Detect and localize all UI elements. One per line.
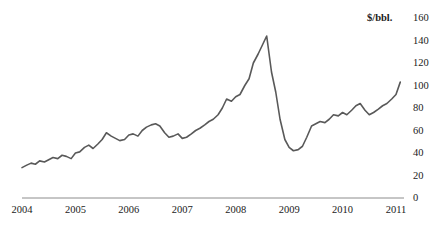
y-axis-tick-0: 0 [413, 193, 418, 204]
y-axis-tick-20: 20 [413, 171, 424, 182]
y-axis-tick-160: 160 [413, 13, 429, 24]
x-axis-tick-2004: 2004 [2, 205, 42, 216]
y-axis-tick-80: 80 [413, 103, 424, 114]
price-series-line [22, 36, 400, 168]
x-axis-tick-2007: 2007 [162, 205, 202, 216]
y-axis-tick-60: 60 [413, 126, 424, 137]
y-axis-tick-40: 40 [413, 148, 424, 159]
y-axis-tick-140: 140 [413, 36, 429, 47]
x-axis-tick-2011: 2011 [376, 205, 416, 216]
x-axis-tick-2008: 2008 [216, 205, 256, 216]
y-axis-tick-100: 100 [413, 81, 429, 92]
chart-plot-area [0, 0, 444, 232]
x-axis-tick-2009: 2009 [269, 205, 309, 216]
x-axis-tick-2006: 2006 [109, 205, 149, 216]
y-axis-tick-120: 120 [413, 58, 429, 69]
unit-label: $/bbl. [367, 13, 392, 24]
x-axis-tick-2010: 2010 [323, 205, 363, 216]
x-axis-tick-2005: 2005 [55, 205, 95, 216]
oil-price-line-chart: $/bbl. 020406080100120140160 20042005200… [0, 0, 444, 232]
